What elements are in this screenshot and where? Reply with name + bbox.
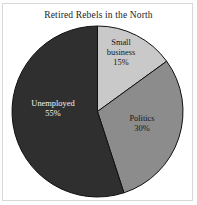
pie-plot-area bbox=[0, 0, 197, 205]
pie-svg bbox=[0, 0, 197, 205]
pie-slice-group bbox=[12, 26, 183, 197]
pie-chart-figure: Retired Rebels in the North Small busine… bbox=[0, 0, 197, 205]
